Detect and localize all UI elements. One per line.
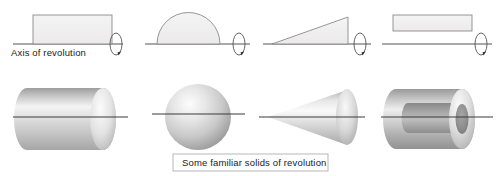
cone-solid (259, 89, 365, 145)
axis-of-revolution-label: Axis of revolution (11, 47, 86, 58)
sphere-body (165, 84, 231, 150)
cylinder-solid (13, 88, 128, 150)
sphere-solid (152, 84, 245, 150)
bottom-row-group (13, 84, 493, 150)
caption-group: Some familiar solids of revolution (173, 154, 328, 171)
top-row-group: Axis of revolution (11, 13, 492, 59)
figure-canvas: Axis of revolution (0, 0, 499, 176)
tube-end-hole (456, 104, 469, 134)
offset-rectangle-shape (393, 15, 472, 31)
tube-solid (381, 89, 493, 149)
semicircle-shape (157, 13, 220, 45)
offset-rectangle-region (382, 15, 492, 56)
rectangle-shape (33, 15, 112, 44)
caption-label: Some familiar solids of revolution (182, 157, 327, 168)
semicircle-region (145, 13, 250, 56)
cylinder-end-cap (90, 88, 116, 150)
solids-of-revolution-figure: Axis of revolution (0, 0, 499, 176)
triangle-shape (272, 17, 348, 44)
right-triangle-region (263, 17, 371, 56)
